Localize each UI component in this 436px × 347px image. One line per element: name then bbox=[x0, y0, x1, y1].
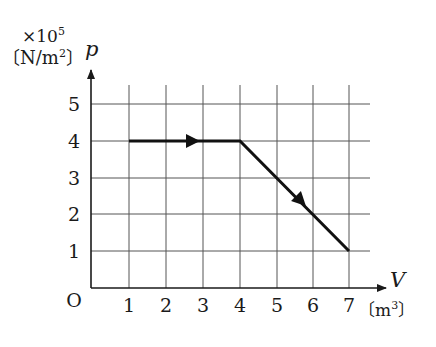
x-unit-label: 〔m3〕 bbox=[358, 299, 415, 320]
process-path bbox=[129, 141, 349, 251]
svg-text:2: 2 bbox=[68, 203, 80, 225]
svg-text:1: 1 bbox=[123, 294, 135, 316]
y-unit-label: 〔N/m2〕 bbox=[2, 47, 84, 68]
y-scale-label: ×105 bbox=[22, 25, 65, 46]
svg-text:5: 5 bbox=[68, 93, 80, 115]
svg-text:5: 5 bbox=[271, 294, 283, 316]
svg-text:4: 4 bbox=[68, 130, 80, 152]
svg-text:7: 7 bbox=[343, 294, 355, 316]
svg-text:3: 3 bbox=[197, 294, 209, 316]
x-tick-labels: 1 2 3 4 5 6 7 bbox=[123, 294, 355, 316]
svg-text:4: 4 bbox=[234, 294, 246, 316]
direction-arrow-icon bbox=[186, 134, 200, 148]
x-variable-label: V bbox=[390, 268, 407, 292]
svg-text:1: 1 bbox=[68, 240, 80, 262]
svg-text:2: 2 bbox=[160, 294, 172, 316]
grid-vertical bbox=[129, 85, 349, 288]
origin-label: O bbox=[66, 289, 82, 311]
svg-text:6: 6 bbox=[307, 294, 319, 316]
y-variable-label: p bbox=[85, 37, 98, 61]
svg-text:3: 3 bbox=[68, 167, 80, 189]
y-tick-labels: 5 4 3 2 1 bbox=[68, 93, 80, 262]
pv-chart: 5 4 3 2 1 1 2 3 4 5 6 7 O ×105 〔N/m2〕 p … bbox=[0, 0, 436, 347]
